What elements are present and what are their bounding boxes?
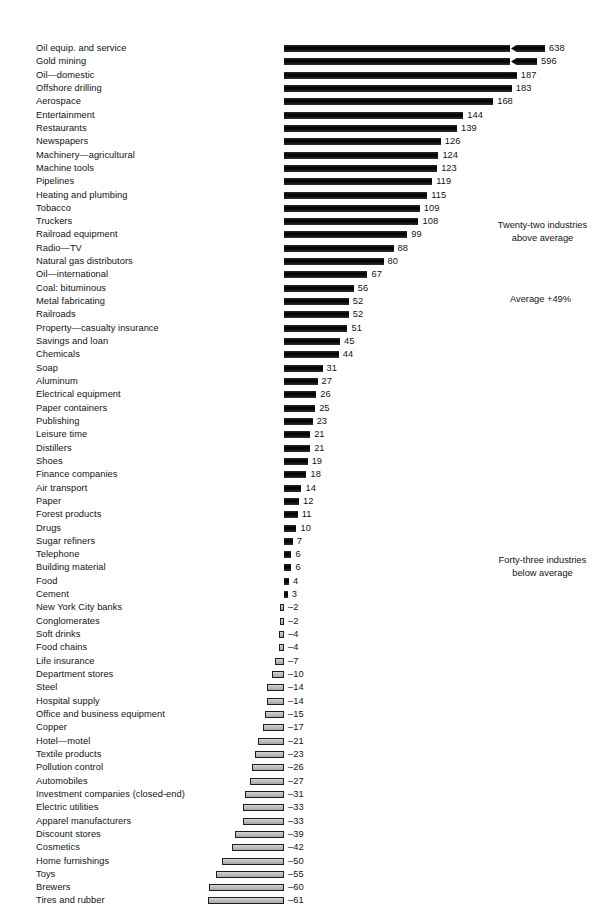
value-label: 124: [442, 149, 458, 162]
bar-positive: [284, 192, 427, 199]
bar-positive: [284, 511, 298, 518]
bar-track: –14: [0, 695, 613, 708]
bar-negative: [216, 871, 284, 878]
bar-positive: [284, 298, 349, 305]
value-label: –55: [288, 868, 304, 881]
chart-row: Copper–17: [0, 721, 613, 734]
bar-track: –21: [0, 735, 613, 748]
value-label: 21: [314, 428, 324, 441]
value-label: –14: [288, 695, 304, 708]
chart-row: Electrical equipment26: [0, 388, 613, 401]
bar-track: 183: [0, 82, 613, 95]
value-label: 23: [317, 415, 327, 428]
value-label: –60: [288, 881, 304, 894]
value-label: 4: [293, 575, 298, 588]
bar-positive: [284, 285, 354, 292]
value-label: 6: [295, 561, 300, 574]
bar-negative: [255, 751, 284, 758]
value-label: 3: [292, 588, 297, 601]
bar-track: –42: [0, 841, 613, 854]
bar-negative: [222, 858, 284, 865]
bar-track: 18: [0, 468, 613, 481]
chart-row: Investment companies (closed-end)–31: [0, 788, 613, 801]
chart-row: Savings and loan45: [0, 335, 613, 348]
chart-row: Offshore drilling183: [0, 82, 613, 95]
chart-row: Publishing23: [0, 415, 613, 428]
chart-row: Gold mining596: [0, 55, 613, 68]
value-label: 12: [303, 495, 313, 508]
bar-positive: [284, 391, 316, 398]
bar-track: 44: [0, 348, 613, 361]
bar-negative: [235, 831, 284, 838]
value-label: 108: [422, 215, 438, 228]
value-label: –21: [288, 735, 304, 748]
value-label: –10: [288, 668, 304, 681]
bar-track: 187: [0, 69, 613, 82]
bar-track: –7: [0, 655, 613, 668]
chart-row: Leisure time21: [0, 428, 613, 441]
value-label: 144: [467, 109, 483, 122]
chart-row: Toys–55: [0, 868, 613, 881]
chart-row: Brewers–60: [0, 881, 613, 894]
average-note-line1: Average +49%: [473, 293, 608, 306]
bar-negative: [265, 711, 284, 718]
chart-row: Drugs10: [0, 522, 613, 535]
chart-row: Heating and plumbing115: [0, 189, 613, 202]
chart-row: Textile products–23: [0, 748, 613, 761]
bar-positive: [284, 445, 310, 452]
chart-row: Entertainment144: [0, 109, 613, 122]
value-label: 187: [521, 69, 537, 82]
bar-track: –39: [0, 828, 613, 841]
bar-track: 168: [0, 95, 613, 108]
value-label: 6: [295, 548, 300, 561]
bar-track: 21: [0, 442, 613, 455]
chart-row: Natural gas distributors80: [0, 255, 613, 268]
bar-positive: [284, 591, 288, 598]
bar-track: 123: [0, 162, 613, 175]
bar-positive: [284, 112, 463, 119]
bar-positive: [284, 458, 308, 465]
axis-break-icon: [510, 44, 518, 53]
above-average-note-line1: Twenty-two industries: [475, 219, 610, 232]
value-label: 25: [319, 402, 329, 415]
bar-track: 119: [0, 175, 613, 188]
bar-negative: [243, 818, 284, 825]
bar-track: 124: [0, 149, 613, 162]
value-label: –26: [288, 761, 304, 774]
bar-positive: [284, 311, 349, 318]
value-label: –33: [288, 815, 304, 828]
bar-track: –4: [0, 641, 613, 654]
bar-track: 31: [0, 362, 613, 375]
bar-positive-broken: [284, 58, 537, 65]
bar-positive: [284, 271, 367, 278]
bar-track: 12: [0, 495, 613, 508]
chart-row: Pollution control–26: [0, 761, 613, 774]
value-label: –4: [288, 641, 298, 654]
chart-row: Distillers21: [0, 442, 613, 455]
bar-positive: [284, 431, 310, 438]
value-label: 638: [549, 42, 565, 55]
chart-row: Soft drinks–4: [0, 628, 613, 641]
bar-track: 52: [0, 308, 613, 321]
bar-track: –60: [0, 881, 613, 894]
chart-row: New York City banks–2: [0, 601, 613, 614]
bar-positive: [284, 138, 441, 145]
bar-negative: [275, 658, 284, 665]
chart-row: Hospital supply–14: [0, 695, 613, 708]
bar-track: –17: [0, 721, 613, 734]
below-average-note-line1: Forty-three industries: [475, 554, 610, 567]
bar-track: –50: [0, 855, 613, 868]
bar-positive: [284, 325, 347, 332]
bar-track: 7: [0, 535, 613, 548]
bar-positive: [284, 378, 318, 385]
value-label: 80: [388, 255, 398, 268]
bar-positive: [284, 405, 315, 412]
value-label: 10: [300, 522, 310, 535]
value-label: 115: [431, 189, 446, 202]
bar-track: –4: [0, 628, 613, 641]
bar-track: 23: [0, 415, 613, 428]
bar-track: 25: [0, 402, 613, 415]
bar-negative: [208, 897, 284, 904]
bar-track: –26: [0, 761, 613, 774]
value-label: –39: [288, 828, 304, 841]
